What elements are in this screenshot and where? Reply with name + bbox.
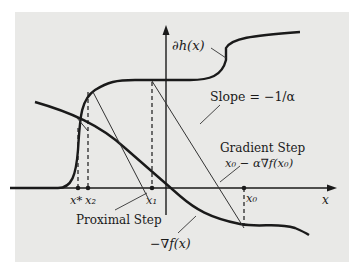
label-slope: Slope = −1/α [210, 89, 296, 104]
point-x0 [242, 186, 247, 191]
x-axis-arrow-icon [327, 185, 337, 192]
label-proximal-step: Proximal Step [76, 213, 162, 227]
label-x0: x₀ [246, 191, 257, 205]
slope-line-x1 [93, 92, 148, 198]
point-x-star [76, 186, 81, 191]
pointer-slope [200, 105, 220, 124]
label-x-star: x* [70, 193, 82, 207]
label-x1: x₁ [146, 193, 157, 207]
label-gradient-step: Gradient Step [220, 141, 306, 155]
pointer-proximal-step [115, 193, 147, 210]
y-axis-arrow-icon [163, 25, 170, 35]
proximal-gradient-diagram: ∂h(x) Slope = −1/α Gradient Step x₀ − α∇… [0, 0, 359, 273]
pointer-neg-gradient [178, 216, 196, 233]
point-x2 [86, 186, 91, 191]
label-subgradient: ∂h(x) [172, 38, 205, 53]
pointer-subgradient [211, 48, 226, 58]
label-x2: x₂ [85, 193, 96, 207]
label-gradient-step-formula: x₀ − α∇f(x₀) [225, 156, 293, 170]
label-x-axis: x [322, 193, 329, 207]
label-neg-gradient: −∇f(x) [150, 236, 191, 251]
point-x1 [150, 186, 155, 191]
